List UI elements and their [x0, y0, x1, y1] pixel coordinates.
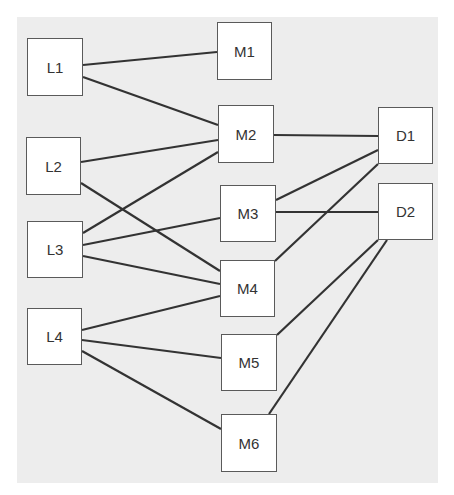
edge-l3-m2	[83, 152, 218, 233]
edge-l4-m5	[82, 340, 221, 358]
node-d2: D2	[378, 183, 433, 240]
node-m2: M2	[218, 105, 274, 163]
node-m1: M1	[217, 22, 272, 80]
edge-l4-m4	[82, 296, 220, 330]
node-label: L1	[47, 59, 64, 76]
node-l3: L3	[27, 221, 83, 278]
node-m5: M5	[221, 334, 277, 391]
node-l1: L1	[27, 38, 83, 96]
node-l2: L2	[26, 137, 81, 195]
node-label: L3	[47, 241, 64, 258]
edge-l2-m2	[81, 140, 218, 162]
node-label: M6	[239, 435, 260, 452]
node-m3: M3	[220, 185, 276, 242]
node-label: D1	[396, 127, 415, 144]
edge-l3-m4	[83, 256, 220, 284]
node-label: M3	[238, 205, 259, 222]
edge-l4-m6	[82, 351, 221, 429]
node-d1: D1	[378, 107, 433, 164]
node-label: L2	[45, 158, 62, 175]
node-label: M5	[239, 354, 260, 371]
edge-l3-m3	[83, 218, 220, 245]
node-label: L4	[46, 328, 63, 345]
edge-m2-d1	[274, 135, 378, 136]
node-label: D2	[396, 203, 415, 220]
node-l4: L4	[27, 308, 82, 365]
node-m4: M4	[220, 260, 275, 317]
edge-m3-d1	[276, 150, 378, 200]
edge-l1-m1	[83, 52, 217, 65]
node-label: M2	[236, 126, 257, 143]
node-label: M4	[237, 280, 258, 297]
node-m6: M6	[221, 414, 277, 472]
node-label: M1	[234, 43, 255, 60]
edge-m5-d2	[277, 240, 378, 335]
edge-l2-m4	[81, 183, 220, 271]
edge-l1-m2	[83, 77, 218, 125]
